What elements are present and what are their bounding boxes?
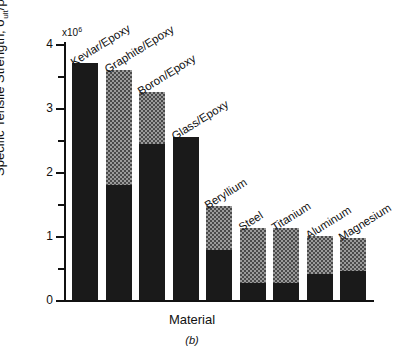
bar-magnesium <box>340 238 366 300</box>
bar-segment-hatched <box>139 92 165 144</box>
y-tick-1 <box>56 236 66 238</box>
bar-kevlar-epoxy <box>72 63 98 300</box>
y-axis-label-text: Specific Tensile Strength, <box>0 27 7 176</box>
plot-area: 01234 Kevlar/EpoxyGraphite/EpoxyBoron/Ep… <box>66 44 378 300</box>
x-axis-line <box>64 300 374 302</box>
bar-graphite-epoxy <box>106 70 132 300</box>
bar-segment-solid <box>340 271 366 300</box>
y-tick-3.5 <box>58 76 66 78</box>
y-tick-0.5 <box>58 268 66 270</box>
y-tick-3 <box>56 108 66 110</box>
x-axis-label: Material <box>0 312 384 327</box>
y-tick-label-0: 0 <box>46 294 53 306</box>
figure-caption: (b) <box>0 334 384 346</box>
bar-segment-solid <box>206 250 232 300</box>
bar-segment-hatched <box>273 228 299 282</box>
bar-segment-hatched <box>240 228 266 282</box>
y-tick-label-2: 2 <box>46 166 53 178</box>
y-tick-2 <box>56 172 66 174</box>
y-tick-label-1: 1 <box>46 230 53 242</box>
bar-segment-solid <box>139 144 165 300</box>
y-tick-4 <box>56 44 66 46</box>
bar-steel <box>240 228 266 300</box>
bar-boron-epoxy <box>139 92 165 300</box>
axis-multiplier-exponent: 6 <box>78 26 82 33</box>
sigma-subscript: ult <box>1 10 10 18</box>
axis-multiplier-base: x10 <box>62 27 78 38</box>
y-tick-2.5 <box>58 140 66 142</box>
bar-segment-solid <box>307 274 333 300</box>
y-tick-1.5 <box>58 204 66 206</box>
bar-beryllium <box>206 206 232 300</box>
category-label-glass-epoxy: Glass/Epoxy <box>169 98 230 142</box>
bar-aluminum <box>307 236 333 300</box>
bar-glass-epoxy <box>173 137 199 300</box>
bar-segment-solid <box>72 63 98 300</box>
rho-units-text: /ρ (inches) <box>0 0 7 10</box>
y-tick-label-4: 4 <box>46 38 53 50</box>
bar-segment-solid <box>240 283 266 300</box>
bar-segment-solid <box>273 283 299 300</box>
sigma-symbol: σ <box>0 19 7 27</box>
y-tick-0 <box>56 300 66 302</box>
bar-segment-solid <box>106 185 132 300</box>
bar-segment-hatched <box>206 206 232 250</box>
bar-segment-hatched <box>307 236 333 274</box>
y-tick-label-3: 3 <box>46 102 53 114</box>
axis-multiplier: x106 <box>62 26 82 38</box>
bar-titanium <box>273 228 299 300</box>
category-label-boron-epoxy: Boron/Epoxy <box>136 53 198 98</box>
bar-segment-solid <box>173 137 199 300</box>
y-axis-label: Specific Tensile Strength, σult/ρ (inche… <box>0 0 10 176</box>
bar-segment-hatched <box>106 70 132 185</box>
